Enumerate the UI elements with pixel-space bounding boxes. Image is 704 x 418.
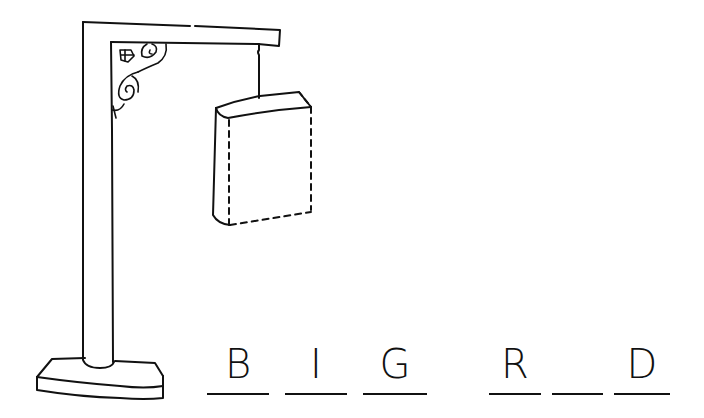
hanging-sign: [213, 92, 311, 225]
letter-slot-4: R: [489, 340, 541, 395]
ornamental-bracket-icon: [112, 44, 166, 118]
slot-letter: I: [285, 340, 347, 388]
slot-letter: D: [614, 340, 670, 388]
letter-slot-6: D: [614, 340, 670, 395]
slot-letter: R: [489, 340, 541, 388]
rope: [258, 44, 259, 98]
slot-underline: [614, 393, 670, 395]
gallows-post: [83, 22, 114, 368]
slot-underline: [489, 393, 541, 395]
letter-slot-2: I: [285, 340, 347, 395]
slot-underline: [207, 393, 269, 395]
slot-underline: [285, 393, 347, 395]
gallows-beam: [83, 22, 280, 46]
slot-letter: B: [207, 340, 269, 388]
letter-slot-1: B: [207, 340, 269, 395]
letter-slot-5-blank: [552, 340, 603, 395]
slot-underline: [363, 393, 427, 395]
letter-slot-3: G: [363, 340, 427, 395]
gallows-base: [37, 358, 163, 399]
slot-letter: G: [363, 340, 427, 388]
slot-underline: [552, 393, 603, 395]
